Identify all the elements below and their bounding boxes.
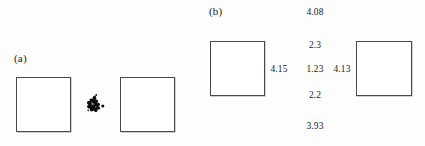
measurement-right-side: 4.13	[329, 64, 355, 74]
panel-label-b: (b)	[209, 5, 222, 17]
panel-a-left-square	[16, 77, 71, 132]
panel-b-left-square	[210, 41, 265, 96]
measurement-upper-middle: 2.3	[298, 40, 332, 50]
panel-label-a: (a)	[14, 52, 27, 64]
measurement-lower-middle: 2.2	[298, 90, 332, 100]
measurement-left-side: 4.15	[266, 64, 292, 74]
panel-a-right-square	[120, 77, 175, 132]
measurement-bottom: 3.93	[298, 121, 332, 131]
measurement-top: 4.08	[298, 7, 332, 17]
measurement-center: 1.23	[298, 64, 332, 74]
panel-b-right-square	[356, 41, 412, 96]
ink-blob-icon	[84, 93, 110, 117]
figure-canvas: (a) (b) 4.08 2.3 1.23 2.2 3.93 4.15 4.13	[0, 0, 425, 146]
